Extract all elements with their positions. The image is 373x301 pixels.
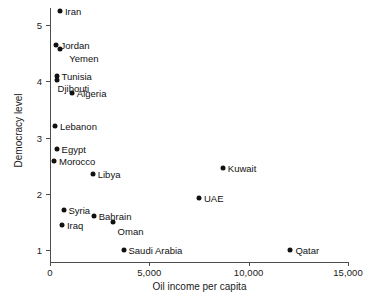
data-point-label: Qatar bbox=[295, 245, 319, 256]
data-point bbox=[57, 8, 62, 13]
y-axis-line bbox=[50, 8, 51, 262]
x-tick-label: 5,000 bbox=[137, 267, 161, 278]
data-point-label: Kuwait bbox=[228, 162, 257, 173]
x-axis-title: Oil income per capita bbox=[50, 281, 349, 292]
data-point bbox=[91, 214, 96, 219]
data-point-label: Iraq bbox=[67, 219, 83, 230]
data-point bbox=[54, 146, 59, 151]
data-point-label: Saudi Arabia bbox=[129, 245, 183, 256]
data-point-label: Tunisia bbox=[62, 70, 92, 81]
data-point-label: Egypt bbox=[62, 143, 86, 154]
data-point bbox=[61, 207, 66, 212]
data-point bbox=[51, 159, 56, 164]
data-point-label: Jordan bbox=[61, 39, 90, 50]
scatter-plot-figure: 05,00010,00015,000 12345 IranJordanYemen… bbox=[0, 0, 373, 301]
data-point-label: Oman bbox=[118, 225, 144, 236]
data-point bbox=[90, 172, 95, 177]
y-tick-mark bbox=[46, 138, 50, 139]
data-point bbox=[58, 46, 63, 51]
data-point-label: Syria bbox=[69, 204, 91, 215]
y-tick-mark bbox=[46, 25, 50, 26]
y-tick-label: 5 bbox=[0, 20, 42, 31]
data-point-label: Algeria bbox=[77, 87, 107, 98]
data-point-label: Morocco bbox=[59, 156, 95, 167]
y-tick-label: 1 bbox=[0, 245, 42, 256]
data-point-label: Yemen bbox=[69, 52, 98, 63]
x-tick-label: 10,000 bbox=[234, 267, 264, 278]
x-tick-mark bbox=[149, 262, 150, 266]
data-point-label: Libya bbox=[98, 169, 121, 180]
x-tick-mark bbox=[249, 262, 250, 266]
data-point bbox=[110, 219, 115, 224]
x-tick-label: 0 bbox=[47, 267, 52, 278]
plot-area: 05,00010,00015,000 12345 IranJordanYemen… bbox=[0, 0, 373, 301]
y-tick-mark bbox=[46, 194, 50, 195]
data-point bbox=[59, 222, 64, 227]
data-point bbox=[69, 90, 74, 95]
data-point bbox=[121, 248, 126, 253]
data-point-label: Iran bbox=[65, 5, 81, 16]
y-tick-mark bbox=[46, 81, 50, 82]
x-tick-mark bbox=[50, 262, 51, 266]
data-point bbox=[197, 196, 202, 201]
x-tick-label: 15,000 bbox=[333, 267, 363, 278]
data-point bbox=[52, 124, 57, 129]
y-axis-title: Democracy level bbox=[13, 51, 24, 211]
data-point-label: Lebanon bbox=[60, 121, 97, 132]
y-tick-mark bbox=[46, 250, 50, 251]
x-axis-line bbox=[50, 262, 349, 263]
data-point bbox=[288, 248, 293, 253]
data-point bbox=[220, 165, 225, 170]
data-point-label: UAE bbox=[204, 193, 224, 204]
x-tick-mark bbox=[348, 262, 349, 266]
data-point-label: Bahrain bbox=[99, 211, 132, 222]
